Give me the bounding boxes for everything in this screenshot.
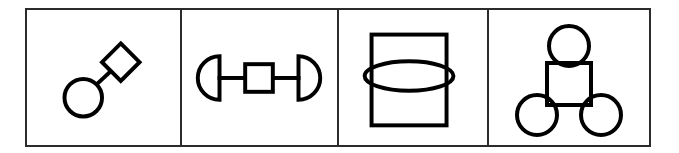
tall-rectangle-shape	[372, 35, 447, 126]
panel-semicircles-square-barbell[interactable]	[182, 10, 339, 145]
horizontal-ellipse-shape	[365, 61, 454, 91]
bottom-right-circle-shape	[581, 95, 621, 135]
left-semicircle-shape	[198, 56, 220, 99]
top-circle-shape	[549, 26, 589, 66]
body-square-shape	[547, 63, 591, 105]
circle-shape	[65, 79, 103, 117]
panel-2-canvas	[182, 10, 337, 145]
panel-1-canvas	[27, 10, 180, 145]
panel-4-canvas	[489, 10, 649, 145]
panel-3-canvas	[339, 10, 487, 145]
connector-line	[96, 72, 110, 85]
panel-rectangle-with-ellipse[interactable]	[339, 10, 489, 145]
panel-strip	[25, 8, 651, 147]
panel-square-with-three-circles[interactable]	[489, 10, 649, 145]
right-semicircle-shape	[298, 56, 320, 99]
figure-root	[0, 0, 679, 153]
center-square-shape	[245, 64, 273, 92]
panel-circle-diamond-link[interactable]	[27, 10, 182, 145]
bottom-left-circle-shape	[517, 95, 557, 135]
